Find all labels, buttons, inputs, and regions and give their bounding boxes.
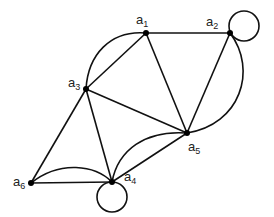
label-a3-sub: 3 (75, 82, 80, 92)
arc-a6-a4 (31, 167, 112, 183)
arc-a2-a5 (187, 33, 243, 133)
node-a5 (184, 130, 190, 136)
loop-a4 (97, 182, 127, 212)
label-a4: a4 (124, 169, 136, 186)
edge-a1-a3 (86, 33, 146, 89)
label-a1-sub: 1 (143, 19, 148, 29)
label-a5: a5 (188, 139, 200, 156)
node-a6 (28, 180, 34, 186)
label-a2: a2 (206, 14, 218, 31)
node-a4 (109, 179, 115, 185)
label-a6: a6 (13, 174, 25, 191)
label-a5-sub: 5 (195, 146, 200, 156)
edge-a3-a4 (86, 89, 112, 182)
label-a2-sub: 2 (213, 21, 218, 31)
label-a1: a1 (136, 12, 148, 29)
label-a4-sub: 4 (131, 176, 136, 186)
node-a3 (83, 86, 89, 92)
node-a2 (227, 30, 233, 36)
edge-a2-a5 (187, 33, 230, 133)
label-a6-sub: 6 (20, 181, 25, 191)
label-a3: a3 (68, 75, 80, 92)
node-a1 (143, 30, 149, 36)
graph-diagram: a1 a2 a3 a4 a5 a6 (0, 0, 274, 217)
loop-a2 (229, 11, 259, 41)
edge-a6-a4 (31, 182, 112, 183)
